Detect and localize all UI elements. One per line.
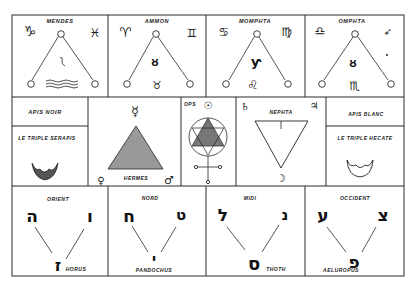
scorpio-icon: ♏ (350, 79, 361, 93)
cell-label: MOMPHTA (239, 18, 271, 24)
center-glyph: ƴ (251, 54, 262, 69)
center-glyph: ᴕ (151, 54, 158, 69)
saturn-icon: ♄ (241, 101, 250, 112)
center-glyph: ᴕ (349, 55, 356, 70)
hermes-label: HERMES (124, 175, 149, 181)
taurus-icon: ♉ (152, 79, 162, 92)
left-letter: ה (26, 206, 38, 226)
right-letter: צ (377, 205, 388, 225)
cell-midi: MIDI ל נ ס THOTH (218, 195, 289, 274)
deity-name: PANDOCHUS (136, 267, 173, 273)
bottom-letter: י (152, 251, 156, 267)
triple-hecate-label: LE TRIPLE HECATE (337, 135, 392, 141)
cell-label: AMMON (144, 18, 170, 24)
mercury-icon: ☿ (131, 104, 139, 119)
apis-blanc-label: APIS BLANC (347, 111, 384, 117)
cell-nephta: ♄ NEPHTA ♃ ☽ (241, 100, 319, 185)
ops-triangle-up (192, 118, 224, 146)
cell-momphta: MOMPHTA ♋ ♍ ƴ ♌ (219, 18, 293, 92)
jupiter-icon: ♃ (310, 100, 319, 111)
deity-name: THOTH (266, 266, 286, 272)
serapis-crescent-icon (32, 163, 58, 180)
moon-icon: ☽ (276, 172, 286, 185)
capricorn-icon: ♑ (24, 23, 37, 39)
sagittarius-arrow-icon: ➶ (384, 26, 392, 37)
cell-label: OMPHTA (338, 18, 365, 24)
aquarius-waves-icon (46, 80, 78, 88)
cancer-icon: ♋ (219, 25, 230, 39)
cell-nord: NORD ח ט י PANDOCHUS (123, 195, 186, 273)
deity-name: AELUROPUS (322, 267, 359, 273)
cell-orient: ORIENT ה ו ז HORUS (26, 196, 93, 275)
cell-hermes: ☿ ♀ HERMES ♂ (97, 104, 174, 187)
venus-icon: ♀ (97, 175, 104, 186)
node-top (58, 31, 65, 38)
apis-noir-label: APIS NOIR (27, 109, 62, 115)
cell-occident: OCCIDENT ע צ פ AELUROPUS (317, 195, 388, 273)
left-letter: ח (123, 206, 135, 226)
gemini-icon: ♊ (187, 26, 198, 40)
libra-icon: ♎ (315, 24, 326, 38)
cell-ammon: AMMON ♈ ♊ ᴕ ♉ (119, 18, 197, 92)
cell-label: MENDES (46, 18, 73, 24)
right-letter: נ (282, 206, 289, 224)
nephta-label: NEPHTA (269, 109, 292, 115)
cell-label: MIDI (244, 195, 257, 201)
left-letter: ל (218, 205, 228, 225)
pisces-icon: ♓ (90, 26, 101, 40)
aries-icon: ♈ (119, 25, 131, 40)
hermes-triangle (108, 126, 163, 169)
hecate-crescent-icon (347, 160, 373, 177)
nephta-triangle (255, 121, 308, 168)
cell-omphta: OMPHTA ♎ ➶ ᴕ ♏ (315, 18, 395, 93)
cell-label: NORD (142, 195, 159, 201)
bottom-letter: ס (248, 253, 260, 274)
leo-icon: ♌ (248, 78, 259, 92)
deity-name: HORUS (66, 266, 87, 272)
bottom-letter: ז (55, 256, 61, 275)
cell-label: OCCIDENT (340, 195, 371, 201)
ops-label: OPS (184, 101, 196, 107)
center-glyph (60, 57, 65, 66)
cell-label: ORIENT (47, 196, 69, 202)
cell-ops: OPS ☉ (184, 100, 227, 184)
right-letter: ט (176, 206, 186, 224)
node-right (92, 81, 99, 88)
cell-mendes: MENDES ♑ ♓ (24, 18, 101, 88)
mars-icon: ♂ (164, 174, 174, 187)
triple-serapis-label: LE TRIPLE SERAPIS (18, 135, 76, 141)
right-letter: ו (87, 206, 93, 226)
left-letter: ע (317, 205, 328, 225)
node-left (28, 81, 35, 88)
sun-icon: ☉ (204, 100, 213, 111)
zodiac-chart: MENDES ♑ ♓ AMMON ♈ ♊ ᴕ ♉ MOMPHTA ♋ ♍ ƴ ♌… (0, 0, 416, 288)
virgo-icon: ♍ (282, 25, 293, 39)
